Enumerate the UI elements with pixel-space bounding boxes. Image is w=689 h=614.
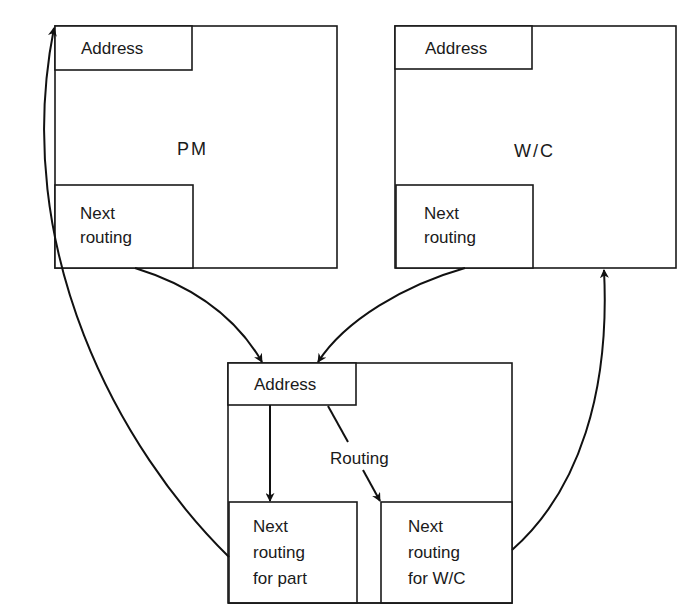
wc-next-routing-line2: routing <box>424 228 476 247</box>
pm-record: Address PM Next routing <box>55 26 337 268</box>
arrow-wc-to-wc-record <box>512 270 605 550</box>
part-line2: routing <box>253 543 305 562</box>
part-line1: Next <box>253 517 288 536</box>
pm-next-routing-line1: Next <box>80 204 115 223</box>
wc-title: W/C <box>514 141 555 161</box>
arrow-pm-to-routing-address <box>135 268 262 362</box>
wc-line2: routing <box>408 543 460 562</box>
pm-title: PM <box>177 139 208 159</box>
wc-line3: for W/C <box>408 569 466 588</box>
wc-address-label: Address <box>425 39 487 58</box>
wc-record: Address W/C Next routing <box>395 26 676 268</box>
routing-address-label: Address <box>254 375 316 394</box>
pm-next-routing-field <box>55 185 193 268</box>
wc-line1: Next <box>408 517 443 536</box>
pm-address-label: Address <box>81 39 143 58</box>
diagram-canvas: Address PM Next routing Address W/C Next… <box>0 0 689 614</box>
arrow-wc-to-routing-address <box>318 268 465 362</box>
wc-next-routing-field <box>396 185 533 268</box>
routing-label: Routing <box>330 449 389 468</box>
part-line3: for part <box>253 569 307 588</box>
wc-next-routing-line1: Next <box>424 204 459 223</box>
pm-next-routing-line2: routing <box>80 228 132 247</box>
